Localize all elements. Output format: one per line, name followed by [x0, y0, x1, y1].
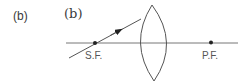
pf-label: P.F.	[202, 51, 218, 61]
sf-label: S.F.	[85, 51, 102, 61]
sf-dot	[93, 41, 97, 45]
incident-ray	[69, 19, 141, 58]
ray-arrow-icon	[110, 30, 121, 36]
pf-dot	[209, 41, 213, 45]
lens-diagram	[0, 0, 248, 84]
